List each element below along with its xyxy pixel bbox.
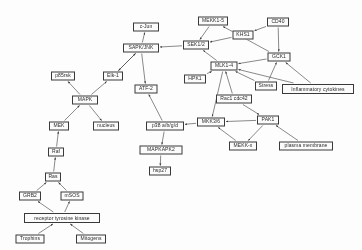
pathway-edge-mapk-to-p85rsk: [68, 82, 80, 95]
pathway-edge-cd40-to-khs1: [255, 27, 267, 31]
pathway-node-mekk1-5[interactable]: MEKK1-5: [198, 17, 228, 26]
pathway-node-label: MEK: [53, 124, 64, 129]
pathway-node-atf-2[interactable]: ATF-2: [135, 85, 158, 94]
pathway-node-mitogens[interactable]: Mitogens: [76, 235, 106, 244]
pathway-node-label: PAK1: [262, 118, 275, 123]
pathway-diagram-canvas: c-JunMEKK1-5CD40SAPK/JNKKHS1p85rskElk-1S…: [0, 0, 362, 250]
pathway-edge-mlk1-4-to-sek1-2: [203, 51, 216, 61]
pathway-node-hsp27[interactable]: hsp27: [149, 167, 171, 176]
pathway-edge-rac1-cdc42-to-pak1: [243, 105, 259, 115]
pathway-edge-msos-to-ras: [59, 183, 67, 191]
pathway-edge-pak1-to-mkk3-6: [226, 120, 256, 121]
pathway-node-label: GRB2: [23, 194, 37, 199]
pathway-node-pak1[interactable]: PAK1: [257, 116, 279, 125]
pathway-edge-sek1-2-to-sapk-jnk: [160, 46, 182, 47]
pathway-edge-cd40-to-gck1: [278, 28, 279, 52]
pathway-node-infl-cyt[interactable]: Inflammatory cytokines: [282, 84, 354, 94]
pathway-node-mlk1-4[interactable]: MLK1-4: [211, 62, 238, 71]
pathway-node-label: hsp27: [153, 169, 167, 174]
pathway-node-trophins[interactable]: Trophins: [16, 235, 45, 244]
pathway-node-label: plasma membrane: [285, 144, 328, 149]
pathway-edge-mitogens-to-rtk: [70, 224, 83, 234]
pathway-node-mekk-x[interactable]: MEKK-x: [229, 142, 257, 151]
pathway-node-label: p85rsk: [55, 74, 71, 79]
pathway-node-p85rsk[interactable]: p85rsk: [51, 72, 75, 81]
pathway-edge-trophins-to-rtk: [38, 224, 53, 234]
pathway-node-label: Inflammatory cytokines: [291, 87, 344, 92]
pathway-node-sek1-2[interactable]: SEK1/2: [183, 41, 209, 50]
pathway-edge-ras-to-raf: [54, 158, 56, 172]
pathway-edge-gck1-to-mlk1-4: [239, 59, 267, 64]
pathway-node-label: Stress: [259, 84, 274, 89]
pathway-node-label: p38 a/b/g/d: [152, 124, 178, 129]
pathway-edge-sapk-jnk-to-c-jun: [142, 33, 144, 43]
pathway-node-label: MAPK: [78, 98, 93, 103]
pathway-node-label: mSOS: [64, 194, 79, 199]
pathway-node-label: Raf: [52, 150, 60, 155]
pathway-node-label: Mitogens: [80, 237, 101, 242]
pathway-node-rtk[interactable]: receptor tyrosine kinase: [24, 213, 100, 223]
pathway-node-raf[interactable]: Raf: [48, 148, 64, 157]
pathway-node-mek[interactable]: MEK: [49, 122, 69, 131]
pathway-edge-p38-to-mapkapk2: [162, 132, 164, 145]
pathway-edge-hpk1-to-mlk1-4: [207, 72, 212, 74]
pathway-edge-rtk-to-msos: [65, 202, 70, 213]
pathway-node-label: Rac1 cdc42: [220, 97, 247, 102]
pathway-edge-plasma-mem-to-pak1: [276, 126, 298, 141]
pathway-node-stress[interactable]: Stress: [255, 82, 277, 91]
pathway-node-gck1[interactable]: GCK1: [268, 53, 291, 62]
pathway-node-c-jun[interactable]: c-Jun: [133, 23, 159, 32]
pathway-node-label: MLK1-4: [215, 64, 233, 69]
pathway-node-label: Elk-1: [107, 74, 119, 79]
pathway-edge-sapk-jnk-to-atf-2: [142, 54, 146, 84]
pathway-edge-infl-cyt-to-gck1: [286, 63, 311, 84]
pathway-node-plasma-mem[interactable]: plasma membrane: [279, 142, 333, 151]
pathway-node-p38[interactable]: p38 a/b/g/d: [146, 122, 184, 131]
pathway-node-label: SAPK/JNK: [129, 46, 154, 51]
pathway-node-label: SEK1/2: [187, 43, 205, 48]
pathway-node-label: Trophins: [20, 237, 40, 242]
pathway-node-label: ATF-2: [139, 87, 153, 92]
pathway-node-label: nucleus: [97, 124, 115, 129]
pathway-node-label: receptor tyrosine kinase: [34, 216, 89, 221]
pathway-node-msos[interactable]: mSOS: [61, 192, 84, 201]
pathway-node-label: KHS1: [236, 33, 249, 38]
pathway-node-label: GCK1: [272, 55, 286, 60]
pathway-node-cd40[interactable]: CD40: [267, 18, 289, 27]
pathway-edge-raf-to-mek: [57, 132, 59, 147]
pathway-node-mapkapk2[interactable]: MAPKAPK2: [140, 146, 183, 155]
pathway-node-label: MAPKAPK2: [147, 148, 175, 153]
pathway-node-label: CD40: [271, 20, 284, 25]
pathway-node-khs1[interactable]: KHS1: [233, 31, 254, 40]
pathway-edge-mapk-to-elk-1: [91, 82, 106, 95]
pathway-edge-elk-1-to-sapk-jnk: [119, 54, 136, 71]
pathway-node-label: c-Jun: [140, 25, 153, 30]
pathway-edge-khs1-to-sek1-2: [210, 37, 232, 42]
pathway-edge-mkk3-6-to-p38: [185, 123, 196, 124]
pathway-node-elk-1[interactable]: Elk-1: [103, 72, 123, 81]
pathway-node-label: Ras: [48, 175, 57, 180]
pathway-edge-pak1-to-mekk-x: [248, 126, 262, 141]
pathway-edge-grb2-to-ras: [37, 183, 47, 191]
pathway-node-mkk3-6[interactable]: MKK3/6: [197, 118, 225, 127]
pathway-edge-mek-to-mapk: [65, 106, 80, 121]
pathway-node-mapk[interactable]: MAPK: [72, 96, 98, 105]
pathway-node-nucleus[interactable]: nucleus: [93, 122, 119, 131]
pathway-edge-p38-to-atf-2: [149, 95, 162, 121]
pathway-node-label: MEKK1-5: [202, 19, 224, 24]
pathway-edge-mekk1-5-to-sek1-2: [200, 27, 209, 40]
pathway-node-rac1-cdc42[interactable]: Rac1 cdc42: [216, 95, 252, 104]
pathway-node-hpk1[interactable]: HPK1: [184, 75, 206, 84]
pathway-node-grb2[interactable]: GRB2: [19, 192, 41, 201]
pathway-node-label: MKK3/6: [202, 120, 220, 125]
pathway-edge-mapk-to-nucleus: [89, 106, 101, 121]
pathway-node-ras[interactable]: Ras: [45, 173, 61, 182]
pathway-edge-mekk-x-to-mkk3-6: [218, 128, 235, 141]
pathway-edge-rac1-cdc42-to-mlk1-4: [226, 72, 233, 94]
pathway-node-label: MEKK-x: [234, 144, 253, 149]
pathway-node-label: HPK1: [188, 77, 201, 82]
pathway-node-sapk-jnk[interactable]: SAPK/JNK: [123, 44, 159, 53]
pathway-edge-rtk-to-grb2: [38, 202, 53, 213]
